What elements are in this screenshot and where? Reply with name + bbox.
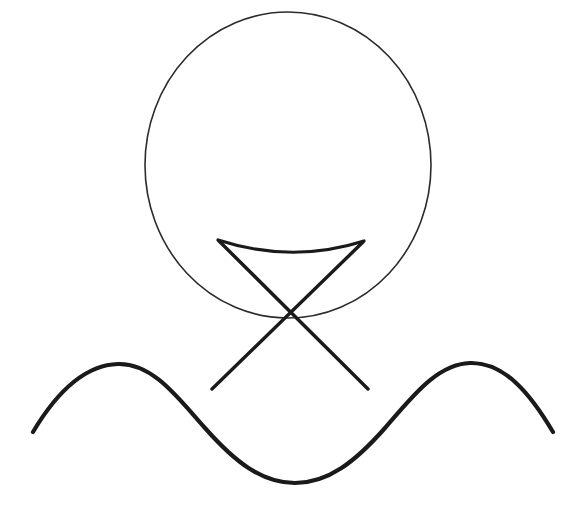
drawing-canvas [0,0,581,511]
paper-background [0,0,581,511]
line-drawing [0,0,581,511]
